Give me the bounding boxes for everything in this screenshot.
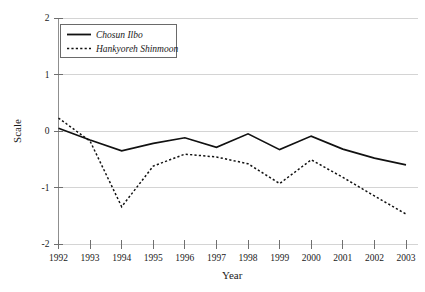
x-tick-label: 1996: [175, 253, 194, 263]
y-tick-label: 2: [45, 13, 50, 23]
series-line-1: [59, 128, 407, 165]
x-tick-label: 2001: [333, 253, 352, 263]
x-tick-label: 1995: [144, 253, 163, 263]
chart-figure: 210-1-2199219931994199519961997199819992…: [0, 0, 425, 292]
data-series-group: [59, 118, 407, 214]
x-tick-label: 1999: [270, 253, 289, 263]
legend-label-1: Chosun Ilbo: [96, 30, 143, 40]
y-tick-label: -1: [42, 183, 50, 193]
y-tick-label: 0: [45, 126, 50, 136]
x-tick-label: 2000: [302, 253, 321, 263]
legend-label-2: Hankyoreh Shinmoon: [95, 44, 178, 54]
y-axis-title: Scale: [11, 119, 23, 143]
x-tick-label: 1993: [81, 253, 100, 263]
x-tick-label: 1997: [207, 253, 226, 263]
y-tick-label: 1: [45, 70, 50, 80]
x-tick-label: 1998: [239, 253, 258, 263]
x-tick-label: 2003: [397, 253, 416, 263]
x-axis-title: Year: [222, 269, 243, 281]
line-chart-canvas: 210-1-2199219931994199519961997199819992…: [0, 0, 425, 292]
x-tick-label: 1992: [49, 253, 68, 263]
y-tick-label: -2: [42, 239, 50, 249]
x-tick-label: 2002: [365, 253, 384, 263]
x-tick-label: 1994: [112, 253, 131, 263]
chart-legend: Chosun IlboHankyoreh Shinmoon: [60, 24, 178, 57]
series-line-2: [59, 118, 407, 214]
